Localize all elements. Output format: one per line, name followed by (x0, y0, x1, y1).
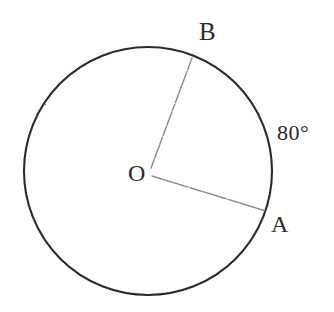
point-label-o-center: O (128, 161, 145, 185)
radius-segment-oa (152, 176, 266, 211)
geometry-figure: B A O 80° (0, 0, 334, 312)
circle-diagram-canvas (0, 0, 334, 312)
point-label-a: A (271, 212, 288, 236)
radius-segment-ob (151, 58, 192, 168)
central-angle-label: 80° (277, 122, 309, 144)
circle-outline (24, 47, 272, 295)
point-label-b: B (199, 19, 216, 44)
